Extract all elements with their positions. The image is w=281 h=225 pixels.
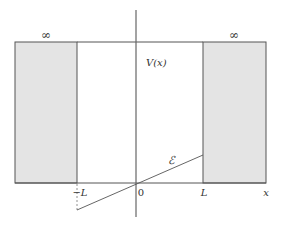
potential-label: V(x)	[146, 57, 167, 68]
x-axis-label: x	[263, 187, 269, 198]
origin-label: 0	[138, 187, 144, 198]
potential-well-diagram: ∞ ∞ V(x) ℰ −L 0 L x	[0, 0, 281, 225]
right-wall	[203, 42, 266, 183]
left-edge-label: −L	[72, 187, 87, 198]
field-label: ℰ	[168, 154, 176, 167]
right-edge-label: L	[200, 187, 208, 198]
left-infinity-label: ∞	[41, 28, 51, 42]
right-infinity-label: ∞	[229, 28, 239, 42]
left-wall	[15, 42, 77, 183]
